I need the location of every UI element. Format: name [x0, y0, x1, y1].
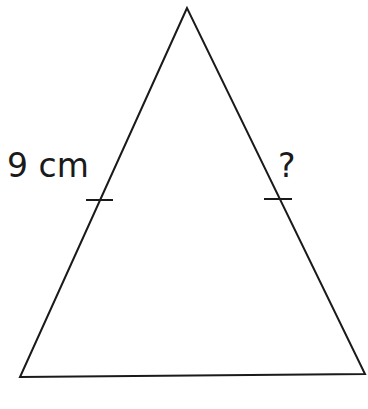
right-side-unknown-label: ? — [278, 149, 296, 182]
left-side-length-label: 9 cm — [7, 149, 89, 182]
isosceles-triangle — [20, 8, 365, 377]
triangle-diagram — [0, 0, 368, 409]
